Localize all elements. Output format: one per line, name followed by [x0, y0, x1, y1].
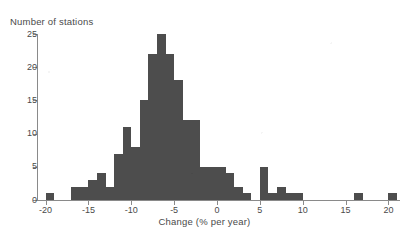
histogram-bar	[123, 127, 132, 200]
histogram-bar	[131, 147, 140, 200]
histogram-bar	[148, 54, 157, 200]
histogram-bar	[140, 100, 149, 200]
x-tick-label: 5	[245, 205, 275, 217]
histogram-chart: Number of stations 0510152025 -20-15-10-…	[0, 0, 409, 241]
histogram-bar	[268, 193, 277, 200]
x-tick-label: -5	[159, 205, 189, 217]
plot-area	[37, 34, 397, 200]
histogram-bar	[191, 120, 200, 200]
histogram-bar	[294, 193, 303, 200]
x-tick-label: 0	[202, 205, 232, 217]
histogram-bar	[354, 193, 363, 200]
histogram-bar	[388, 193, 397, 200]
y-axis-title: Number of stations	[10, 16, 93, 27]
histogram-bar	[106, 187, 115, 200]
y-tick-label: 25	[7, 30, 37, 39]
histogram-bar	[174, 80, 183, 200]
y-tick-label: 10	[7, 129, 37, 138]
y-tick-label: 5	[7, 162, 37, 171]
histogram-bar	[286, 193, 295, 200]
x-tick-label: -10	[116, 205, 146, 217]
histogram-bar	[97, 173, 106, 200]
histogram-bar	[114, 154, 123, 200]
x-axis-title: Change (% per year)	[0, 216, 409, 227]
histogram-bar	[157, 34, 166, 200]
y-tick-label: 0	[7, 196, 37, 205]
y-tick-label: 15	[7, 96, 37, 105]
x-tick-label: 15	[331, 205, 361, 217]
x-tick-label: -20	[31, 205, 61, 217]
histogram-bar	[243, 193, 252, 200]
histogram-bar	[217, 167, 226, 200]
histogram-bar	[260, 167, 269, 200]
histogram-bar	[46, 193, 55, 200]
histogram-bar	[80, 187, 89, 200]
histogram-bar	[200, 167, 209, 200]
histogram-bar	[277, 187, 286, 200]
histogram-bar	[88, 180, 97, 200]
x-tick-label: 10	[288, 205, 318, 217]
x-tick-label: -15	[73, 205, 103, 217]
histogram-bar	[71, 187, 80, 200]
histogram-bar	[166, 54, 175, 200]
histogram-bar	[234, 187, 243, 200]
histogram-bar	[183, 120, 192, 200]
histogram-bar	[208, 167, 217, 200]
histogram-bar	[226, 173, 235, 200]
y-tick-label: 20	[7, 63, 37, 72]
x-tick-label: 20	[373, 205, 403, 217]
